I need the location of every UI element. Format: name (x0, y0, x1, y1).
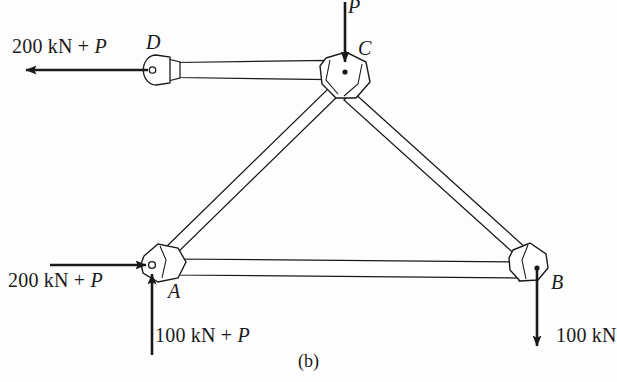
members-group (141, 52, 548, 282)
member-CB-body (344, 91, 527, 258)
member-DC-body (177, 61, 330, 80)
joint-label-C: C (358, 38, 371, 58)
force-label-at-A-vertical: 100 kN + P (155, 325, 250, 345)
pin-center-C (342, 69, 347, 74)
joint-label-D: D (146, 32, 160, 52)
force-label-at-D-operator: + (78, 35, 89, 57)
member-AB-body (172, 259, 521, 278)
force-label-at-A-vertical-magnitude: 100 kN (155, 324, 216, 346)
member-CB (344, 91, 527, 258)
joint-label-B: B (551, 272, 563, 292)
force-label-at-D-variable: P (95, 35, 107, 57)
force-label-at-A-horizontal-operator: + (74, 269, 85, 291)
joint-A-gusset (141, 244, 186, 282)
force-label-at-B: 100 kN (556, 325, 617, 345)
force-label-at-C: P (348, 0, 360, 16)
force-label-at-A-vertical-variable: P (238, 324, 250, 346)
pin-hole-A (149, 262, 156, 269)
force-label-at-D: 200 kN + P (12, 36, 107, 56)
member-DC (143, 55, 330, 85)
truss-diagram-svg (0, 0, 617, 382)
force-label-at-A-vertical-operator: + (221, 324, 232, 346)
figure-caption: (b) (298, 352, 319, 370)
truss-figure: 200 kN + P D P C 200 kN + P A 100 kN + P… (0, 0, 617, 382)
joint-B-plate (509, 243, 548, 281)
member-AC-body (163, 85, 341, 258)
force-label-at-A-horizontal: 200 kN + P (8, 270, 103, 290)
pin-hole-D (149, 67, 155, 73)
member-AC (163, 85, 341, 258)
joint-B-gusset (509, 243, 548, 281)
joint-label-A: A (168, 281, 180, 301)
force-label-at-A-horizontal-variable: P (91, 269, 103, 291)
joint-A-plate (141, 244, 186, 282)
force-label-at-D-magnitude: 200 kN (12, 35, 73, 57)
member-AB (162, 256, 531, 281)
force-label-at-A-horizontal-magnitude: 200 kN (8, 269, 69, 291)
